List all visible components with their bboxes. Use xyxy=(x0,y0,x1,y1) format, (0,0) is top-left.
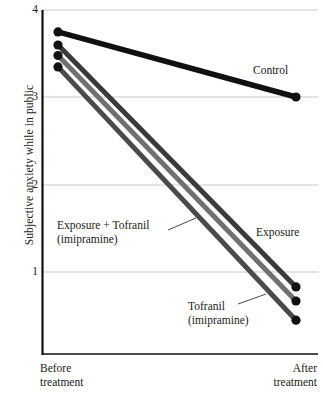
x-tick-label-before-line1: Before xyxy=(40,362,83,376)
series-label-exposure-tofranil-line2: (imipramine) xyxy=(57,233,149,247)
series-line-tofranil xyxy=(58,67,296,320)
x-tick-label-before-line2: treatment xyxy=(40,376,83,390)
series-label-control: Control xyxy=(253,64,288,78)
series-label-tofranil-line1: Tofranil xyxy=(188,300,249,314)
leader-line-exposure-tofranil xyxy=(168,218,196,230)
chart-plot-area xyxy=(0,0,323,395)
chart-figure: Subjective anxiety while in public 4 3 2… xyxy=(0,0,323,395)
series-line-exposure-tofranil xyxy=(58,56,296,302)
series-label-exposure-tofranil-line1: Exposure + Tofranil xyxy=(57,219,149,233)
series-label-tofranil-line2: (imipramine) xyxy=(188,314,249,328)
series-label-exposure: Exposure xyxy=(256,226,299,240)
x-tick-label-before: Before treatment xyxy=(40,362,83,389)
x-tick-label-after: After treatment xyxy=(259,362,317,389)
series-label-exposure-tofranil: Exposure + Tofranil (imipramine) xyxy=(57,219,149,246)
x-tick-label-after-line2: treatment xyxy=(259,376,317,390)
series-label-tofranil: Tofranil (imipramine) xyxy=(188,300,249,327)
x-tick-label-after-line1: After xyxy=(259,362,317,376)
series-line-exposure xyxy=(58,45,296,287)
